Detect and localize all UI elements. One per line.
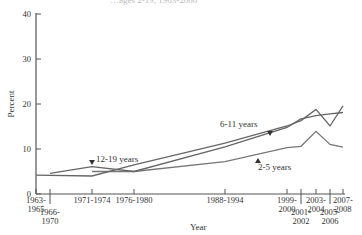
y-tick-label: 20 — [23, 99, 32, 109]
x-tick-label: 1976-1980 — [116, 195, 153, 205]
annotation-6-11: 6-11 years — [220, 119, 258, 129]
y-tick-label: 10 — [23, 144, 32, 154]
annotation-12-19: 12-19 years — [96, 154, 139, 164]
x-axis-label: Year — [190, 222, 207, 232]
y-tick-label: 40 — [23, 9, 32, 19]
x-tick-label: 2008 — [335, 204, 352, 214]
annotation-2-5: 2-5 years — [258, 162, 292, 172]
line-chart: …ages 2-19, 1963-2008 010203040 1963-196… — [0, 0, 362, 235]
x-tick-label: 1970 — [42, 216, 59, 226]
x-tick-label: 1971-1974 — [74, 195, 112, 205]
marker-2-5 — [255, 158, 261, 163]
x-tick-label: 1988-1994 — [207, 195, 245, 205]
x-tick-label: 2002 — [293, 216, 310, 226]
y-axis-label: Percent — [6, 90, 16, 117]
y-tick-label: 30 — [23, 54, 32, 64]
x-tick-label: 2006 — [322, 216, 339, 226]
marker-12-19 — [89, 160, 95, 165]
chart-title: …ages 2-19, 1963-2008 — [110, 0, 198, 5]
